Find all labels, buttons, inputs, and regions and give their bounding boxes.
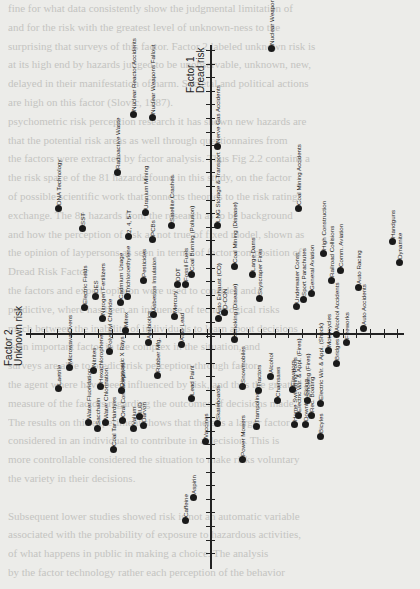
data-point bbox=[99, 315, 106, 322]
data-point bbox=[231, 263, 238, 270]
data-point bbox=[300, 296, 307, 303]
data-point bbox=[154, 372, 161, 379]
data-point bbox=[249, 271, 256, 278]
data-point bbox=[302, 421, 309, 428]
data-point bbox=[168, 222, 175, 229]
data-point bbox=[92, 293, 99, 300]
tick bbox=[152, 329, 153, 338]
data-point bbox=[308, 412, 315, 419]
point-label: Auto Accidents bbox=[360, 284, 367, 325]
tick bbox=[206, 50, 215, 51]
data-point bbox=[308, 290, 315, 297]
data-point bbox=[102, 419, 109, 426]
data-point bbox=[145, 339, 152, 346]
point-label: Bridges bbox=[333, 339, 340, 360]
point-label: Auto Racing bbox=[355, 250, 362, 284]
point-label: Skateboards bbox=[214, 385, 221, 420]
point-label: Saccharin bbox=[94, 397, 101, 425]
tick bbox=[206, 526, 215, 527]
tick bbox=[261, 329, 262, 338]
bleed-line: fine for what data consistently show the… bbox=[8, 2, 420, 15]
tick bbox=[206, 322, 215, 323]
point-label: Coal Burning (Pollution) bbox=[188, 206, 195, 271]
data-point bbox=[268, 45, 275, 52]
point-label: Radioactive Waste bbox=[114, 118, 121, 169]
point-label: Alcohol bbox=[267, 353, 274, 373]
tick bbox=[248, 329, 249, 338]
point-label: Rubber Mfg. bbox=[154, 338, 161, 372]
tick bbox=[44, 329, 45, 338]
point-label: Fireworks bbox=[343, 312, 350, 339]
point-label: DES bbox=[92, 280, 99, 293]
data-point bbox=[174, 281, 181, 288]
tick bbox=[206, 268, 215, 269]
tick bbox=[288, 329, 289, 338]
tick bbox=[84, 329, 85, 338]
point-label: Trampolines bbox=[253, 389, 260, 423]
data-point bbox=[333, 331, 340, 338]
data-point bbox=[255, 387, 262, 394]
point-label: Smoking (Disease) bbox=[231, 284, 238, 336]
tick bbox=[139, 329, 140, 338]
tick bbox=[206, 77, 215, 78]
point-label: Uranium Mining bbox=[142, 166, 149, 209]
data-point bbox=[178, 341, 185, 348]
tick bbox=[206, 499, 215, 500]
tick bbox=[206, 254, 215, 255]
data-point bbox=[130, 425, 137, 432]
point-label: Nuclear Weapons (War) bbox=[268, 0, 275, 45]
factor-1-label-line2: Dread risk bbox=[196, 47, 206, 93]
point-label: Coal Mining Accidents bbox=[295, 144, 302, 205]
data-point bbox=[389, 238, 396, 245]
point-label: Valium bbox=[130, 407, 137, 425]
data-point bbox=[291, 421, 298, 428]
point-label: Microwave Ovens bbox=[66, 315, 73, 364]
data-point bbox=[149, 114, 156, 121]
bleed-line: at its high end by hazards judged to be … bbox=[8, 58, 420, 71]
tick bbox=[30, 329, 31, 338]
tick bbox=[206, 512, 215, 513]
point-label: Comm. Aviation bbox=[337, 224, 344, 267]
point-label: 2, 4, 5-T bbox=[125, 210, 132, 233]
point-label: LNG Storage & Transport bbox=[214, 152, 221, 222]
data-point bbox=[267, 373, 274, 380]
data-point bbox=[221, 309, 228, 316]
tick bbox=[207, 329, 208, 338]
bleed-line: and how the perception of risk as not tr… bbox=[8, 228, 420, 241]
tick bbox=[206, 281, 215, 282]
point-label: Nerve Gas Accidents bbox=[214, 85, 221, 143]
tick bbox=[206, 444, 215, 445]
tick bbox=[193, 329, 194, 338]
point-label: Oral Contraceptives bbox=[119, 362, 126, 417]
data-point bbox=[171, 313, 178, 320]
data-point bbox=[106, 348, 113, 355]
point-label: Electric Fields bbox=[81, 265, 88, 304]
data-point bbox=[317, 400, 324, 407]
data-point bbox=[140, 277, 147, 284]
data-point bbox=[214, 143, 221, 150]
data-point bbox=[142, 209, 149, 216]
point-label: Sport Parachutes bbox=[300, 248, 307, 296]
point-label: Asbestos Insulation bbox=[150, 257, 157, 311]
point-label: Tractors bbox=[255, 365, 262, 387]
data-point bbox=[130, 111, 137, 118]
point-label: Nuclear Reactor Accidents bbox=[130, 38, 137, 111]
data-point bbox=[188, 395, 195, 402]
tick bbox=[206, 336, 215, 337]
tick bbox=[397, 329, 398, 338]
data-point bbox=[214, 420, 221, 427]
point-label: Cadmium Usage bbox=[117, 253, 124, 299]
data-point bbox=[81, 304, 88, 311]
tick bbox=[206, 295, 215, 296]
point-label: Skyscraper Fires bbox=[256, 249, 263, 295]
data-point bbox=[66, 364, 73, 371]
data-point bbox=[202, 438, 209, 445]
point-label: PCBs bbox=[149, 220, 156, 236]
factor-1-axis-label: Factor 1 Dread risk bbox=[186, 47, 206, 93]
point-label: Handguns bbox=[389, 210, 396, 238]
point-label: Home Swimming Pools bbox=[291, 357, 298, 421]
point-label: Antibiotics bbox=[145, 311, 152, 339]
tick bbox=[206, 240, 215, 241]
data-point bbox=[114, 169, 121, 176]
tick bbox=[206, 485, 215, 486]
